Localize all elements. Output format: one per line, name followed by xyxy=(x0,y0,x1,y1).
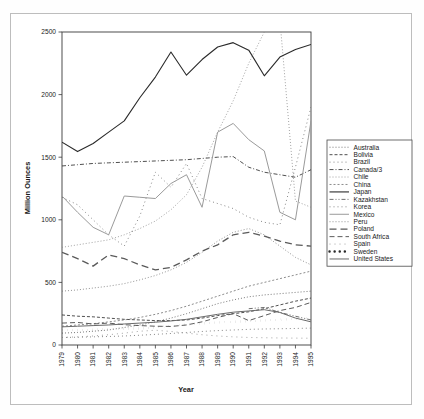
x-tick-label: 1990 xyxy=(229,352,236,367)
x-tick-label: 1986 xyxy=(167,352,174,367)
legend-label-bolivia: Bolivia xyxy=(354,151,374,158)
legend-label-united-states: United States xyxy=(354,255,394,262)
x-tick-label: 1988 xyxy=(198,352,205,367)
series-line-mexico xyxy=(62,121,311,235)
legend-label-brazil: Brazil xyxy=(354,158,371,165)
legend-label-china: China xyxy=(354,181,372,188)
legend-label-sweden: Sweden xyxy=(354,248,378,255)
series-line-china xyxy=(62,271,311,326)
series-line-sweden xyxy=(62,318,311,330)
series-line-chile xyxy=(62,19,311,247)
legend-label-mexico: Mexico xyxy=(354,211,375,218)
x-tick-label: 1980 xyxy=(74,352,81,367)
y-tick-label: 1000 xyxy=(41,216,56,223)
series-line-japan xyxy=(62,43,311,152)
legend-label-korea: Korea xyxy=(354,203,372,210)
x-tick-label: 1981 xyxy=(89,352,96,367)
series-line-korea xyxy=(62,107,311,246)
legend-label-australia: Australia xyxy=(354,144,380,151)
figure-root: 05001000150020002500 1979198019811982198… xyxy=(0,0,424,419)
x-tick-label: 1979 xyxy=(58,352,65,367)
x-tick-label: 1983 xyxy=(121,352,128,367)
legend-label-kazakhstan: Kazakhstan xyxy=(354,196,389,203)
x-tick-label: 1982 xyxy=(105,352,112,367)
series-line-canada-3 xyxy=(62,157,311,178)
x-tick-label: 1985 xyxy=(152,352,159,367)
y-tick-label: 2500 xyxy=(41,28,56,35)
y-tick-label: 500 xyxy=(45,279,56,286)
x-tick-label: 1993 xyxy=(276,352,283,367)
legend-label-south-africa: South Africa xyxy=(354,233,390,240)
x-tick-label: 1992 xyxy=(261,352,268,367)
x-axis: 1979198019811982198319841985198619871988… xyxy=(58,345,314,367)
x-tick-label: 1994 xyxy=(292,352,299,367)
x-tick-label: 1987 xyxy=(183,352,190,367)
y-tick-label: 0 xyxy=(52,341,56,348)
series-line-poland xyxy=(62,232,311,270)
y-axis: 05001000150020002500 xyxy=(41,28,62,348)
y-tick-label: 1500 xyxy=(41,154,56,161)
legend-label-canada-3: Canada/3 xyxy=(354,166,383,173)
legend-label-chile: Chile xyxy=(354,173,369,180)
series-line-spain xyxy=(62,330,311,338)
series-layer xyxy=(62,19,311,338)
legend-label-peru: Peru xyxy=(354,218,368,225)
x-tick-label: 1989 xyxy=(214,352,221,367)
x-axis-label: Year xyxy=(178,385,194,394)
x-tick-label: 1991 xyxy=(245,352,252,367)
series-line-bolivia xyxy=(62,298,311,321)
legend: AustraliaBoliviaBrazilCanada/3ChileChina… xyxy=(327,140,412,266)
legend-label-poland: Poland xyxy=(354,225,375,232)
y-axis-label: Million Ounces xyxy=(23,162,32,215)
series-line-kazakhstan xyxy=(249,307,311,320)
x-tick-label: 1984 xyxy=(136,352,143,367)
y-tick-label: 2000 xyxy=(41,91,56,98)
x-tick-label: 1995 xyxy=(307,352,314,367)
series-line-brazil xyxy=(62,328,311,337)
line-chart: 05001000150020002500 1979198019811982198… xyxy=(0,0,424,419)
